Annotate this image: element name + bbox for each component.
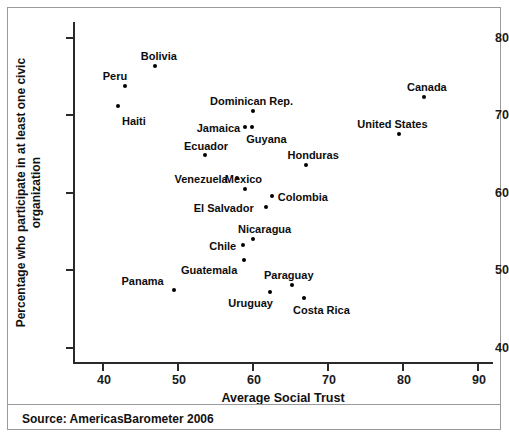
data-point-label: Honduras <box>288 150 339 161</box>
data-point <box>243 187 247 191</box>
x-tick-label: 50 <box>159 374 199 387</box>
data-point <box>251 109 255 113</box>
data-point <box>172 288 176 292</box>
data-point <box>422 95 426 99</box>
x-axis-title: Average Social Trust <box>73 391 493 405</box>
data-point-label: United States <box>357 119 427 130</box>
data-point-label: Costa Rica <box>293 305 350 316</box>
data-point-label: Colombia <box>278 192 328 203</box>
x-tick-label: 80 <box>384 374 424 387</box>
x-tick-mark <box>177 363 179 371</box>
data-point-label: Bolivia <box>141 51 177 62</box>
data-point <box>241 243 245 247</box>
data-point-label: El Salvador <box>194 203 254 214</box>
data-point <box>264 205 268 209</box>
data-point-label: Canada <box>407 82 447 93</box>
data-point <box>203 153 207 157</box>
x-tick-label: 60 <box>234 374 274 387</box>
x-tick-mark <box>402 363 404 371</box>
source-note: Source: AmericasBarometer 2006 <box>22 412 214 426</box>
data-point <box>243 125 247 129</box>
data-point-label: Panama <box>122 276 164 287</box>
y-axis-title: Percentage who participate in at least o… <box>14 22 44 363</box>
data-point <box>250 125 254 129</box>
y-axis-title-line: organization <box>29 58 44 327</box>
data-point <box>116 104 120 108</box>
data-point <box>270 194 274 198</box>
data-point-label: Peru <box>103 71 127 82</box>
y-axis-title-line: Percentage who participate in at least o… <box>14 58 29 327</box>
data-point-label: Mexico <box>225 174 262 185</box>
data-point <box>290 283 294 287</box>
x-tick-mark <box>327 363 329 371</box>
data-point-label: Uruguay <box>228 298 273 309</box>
data-point-label: Guatemala <box>181 265 237 276</box>
x-tick-label: 90 <box>459 374 499 387</box>
data-point-label: Guyana <box>246 134 286 145</box>
data-point-label: Paraguay <box>264 270 314 281</box>
x-tick-label: 40 <box>84 374 124 387</box>
data-point <box>268 290 272 294</box>
data-point-label: Chile <box>209 241 236 252</box>
x-tick-label: 70 <box>309 374 349 387</box>
x-tick-mark <box>102 363 104 371</box>
data-point <box>242 258 246 262</box>
data-point <box>302 296 306 300</box>
data-point <box>123 84 127 88</box>
chart-figure: 4050607080 405060708090 HaitiPeruBolivia… <box>0 0 509 438</box>
x-tick-mark <box>252 363 254 371</box>
data-point <box>251 237 255 241</box>
data-point <box>304 163 308 167</box>
data-point-label: Jamaica <box>197 123 240 134</box>
data-point <box>397 132 401 136</box>
data-point-label: Ecuador <box>184 141 228 152</box>
x-tick-mark <box>477 363 479 371</box>
data-point <box>153 64 157 68</box>
scatter-plot-area: HaitiPeruBoliviaPanamaEcuadorVenezuelaCh… <box>73 22 493 363</box>
data-point-label: Dominican Rep. <box>210 96 293 107</box>
y-axis-title-text: Percentage who participate in at least o… <box>14 58 43 327</box>
data-point-label: Haiti <box>122 116 146 127</box>
data-point-label: Nicaragua <box>238 224 291 235</box>
data-point-label: Venezuela <box>175 174 228 185</box>
source-divider <box>8 404 500 405</box>
